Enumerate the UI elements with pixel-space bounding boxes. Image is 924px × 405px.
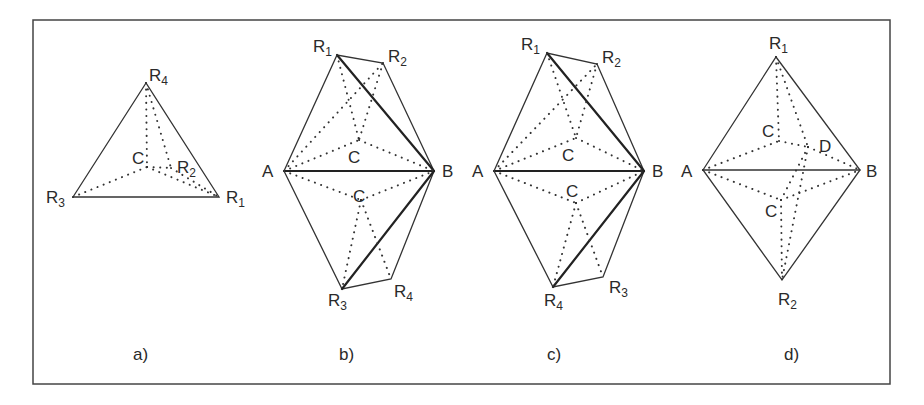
panel-b-solid-edges [284, 55, 434, 289]
label-R4: R4 [394, 282, 413, 304]
label-R1: R1 [313, 37, 332, 59]
label-R2: R2 [388, 47, 407, 69]
label-C-upper: C [762, 122, 774, 141]
figure-canvas: R4 C R2 R3 R1 a) R1 R2 A B C [0, 0, 924, 405]
panel-a-solid-edges [73, 83, 219, 197]
label-A: A [681, 162, 693, 181]
caption-b: b) [339, 345, 354, 364]
label-C-lower: C [566, 182, 578, 201]
panel-b: R1 R2 A B C C R3 R4 b) [262, 37, 453, 364]
label-B: B [442, 162, 453, 181]
panel-c-solid-edges [494, 53, 644, 287]
label-D: D [819, 137, 831, 156]
label-A: A [262, 162, 274, 181]
label-R4: R4 [544, 291, 563, 313]
panel-a: R4 C R2 R3 R1 a) [46, 66, 245, 364]
caption-d: d) [784, 345, 799, 364]
label-B: B [866, 162, 877, 181]
label-C-lower: C [353, 187, 365, 206]
label-C-upper: C [348, 148, 360, 167]
label-R4: R4 [149, 66, 168, 88]
label-R1: R1 [521, 35, 540, 57]
label-R1: R1 [769, 34, 788, 56]
label-R3: R3 [609, 278, 628, 300]
label-C: C [132, 149, 144, 168]
label-C-lower: C [765, 202, 777, 221]
label-R2: R2 [177, 158, 196, 180]
label-R1: R1 [226, 188, 245, 210]
label-A: A [472, 162, 484, 181]
label-R3: R3 [46, 188, 65, 210]
panel-c: R1 R2 A B C C R4 R3 c) [472, 35, 663, 364]
panel-d-hidden-edges [703, 57, 860, 280]
label-R3: R3 [328, 291, 347, 313]
label-B: B [652, 162, 663, 181]
caption-c: c) [547, 345, 561, 364]
caption-a: a) [133, 345, 148, 364]
label-R2: R2 [602, 48, 621, 70]
label-C-upper: C [562, 146, 574, 165]
panel-a-hidden-edges [73, 83, 219, 197]
label-R2: R2 [778, 290, 797, 312]
panel-d: R1 C D A B C R2 d) [681, 34, 877, 364]
